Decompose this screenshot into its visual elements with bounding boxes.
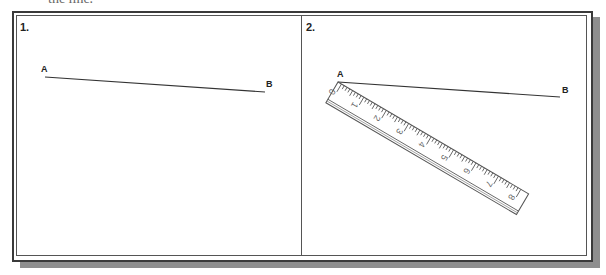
panel-1-line-ab	[45, 77, 265, 92]
ruler-numbers: 012345678	[327, 87, 518, 202]
ruler: 012345678	[322, 79, 529, 214]
drawing-canvas: 012345678	[0, 0, 606, 275]
panel-2-line-ab	[338, 82, 560, 97]
